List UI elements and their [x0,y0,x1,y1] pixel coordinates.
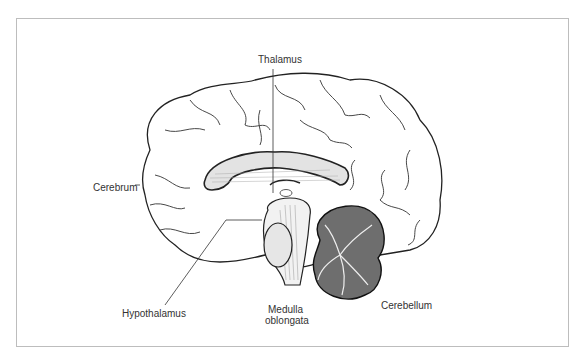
label-medulla-line2: oblongata [265,315,309,326]
label-thalamus: Thalamus [258,54,302,65]
pons [264,223,292,267]
label-medulla-line1: Medulla [268,304,303,315]
label-hypothalamus: Hypothalamus [122,308,186,319]
cerebellum-shape [313,206,384,299]
label-cerebrum: Cerebrum [93,182,137,193]
label-cerebellum: Cerebellum [381,300,432,311]
